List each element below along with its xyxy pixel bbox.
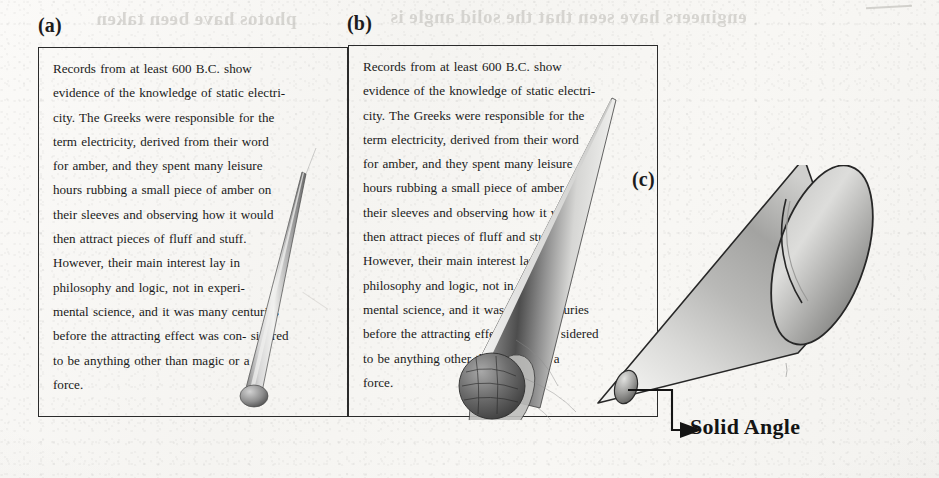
ghost-text-left: photos have been taken bbox=[96, 8, 297, 30]
body-text-line: philosophy and logic, not in experi- bbox=[53, 276, 335, 300]
body-text-line: Records from at least 600 B.C. show bbox=[363, 55, 645, 79]
body-text-line: their sleeves and observing how it would bbox=[53, 203, 335, 227]
body-text-line: However, their main interest lay in bbox=[363, 249, 645, 273]
body-text-panel-b: Records from at least 600 B.C. showevide… bbox=[363, 55, 645, 395]
body-text-line: However, their main interest lay in bbox=[53, 251, 335, 275]
text-box-panel-a: Records from at least 600 B.C. showevide… bbox=[38, 47, 348, 417]
body-text-line: to be anything other than magic or a bbox=[53, 349, 335, 373]
text-box-panel-b: Records from at least 600 B.C. showevide… bbox=[348, 45, 658, 417]
body-text-line: before the attracting effect was con- si… bbox=[53, 324, 335, 348]
body-text-line: evidence of the knowledge of static elec… bbox=[363, 79, 645, 103]
body-text-line: before the attracting effect was con- si… bbox=[363, 322, 645, 346]
body-text-line: force. bbox=[363, 371, 645, 395]
solid-angle-label: Solid Angle bbox=[690, 414, 800, 440]
body-text-line: mental science, and it was many centurie… bbox=[53, 300, 335, 324]
body-text-line: then attract pieces of fluff and stuff. bbox=[53, 227, 335, 251]
body-text-panel-a: Records from at least 600 B.C. showevide… bbox=[53, 57, 335, 397]
ghost-text-right: engineers have seen that the solid angle… bbox=[390, 6, 747, 28]
body-text-line: their sleeves and observing how it would bbox=[363, 201, 645, 225]
panel-label-c: (c) bbox=[632, 168, 655, 191]
body-text-line: then attract pieces of fluff and stuff. bbox=[363, 225, 645, 249]
body-text-line: to be anything other than magic or a bbox=[363, 347, 645, 371]
body-text-line: force. bbox=[53, 373, 335, 397]
body-text-line: city. The Greeks were responsible for th… bbox=[53, 106, 335, 130]
scan-scratch bbox=[866, 5, 912, 9]
body-text-line: Records from at least 600 B.C. show bbox=[53, 57, 335, 81]
body-text-line: term electricity, derived from their wor… bbox=[53, 130, 335, 154]
panel-label-a: (a) bbox=[38, 14, 62, 37]
body-text-line: evidence of the knowledge of static elec… bbox=[53, 81, 335, 105]
body-text-line: hours rubbing a small piece of amber on bbox=[53, 178, 335, 202]
panel-label-b: (b) bbox=[347, 12, 372, 35]
body-text-line: city. The Greeks were responsible for th… bbox=[363, 104, 645, 128]
body-text-line: for amber, and they spent many leisure bbox=[363, 152, 645, 176]
body-text-line: philosophy and logic, not in experi- bbox=[363, 274, 645, 298]
body-text-line: mental science, and it was many centurie… bbox=[363, 298, 645, 322]
body-text-line: hours rubbing a small piece of amber on bbox=[363, 176, 645, 200]
body-text-line: for amber, and they spent many leisure bbox=[53, 154, 335, 178]
body-text-line: term electricity, derived from their wor… bbox=[363, 128, 645, 152]
